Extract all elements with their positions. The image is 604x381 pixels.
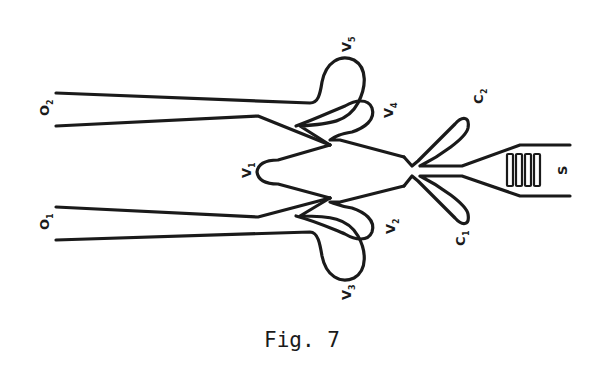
svg-text:V: V: [381, 108, 396, 118]
svg-text:S: S: [555, 166, 570, 175]
svg-text:V: V: [339, 42, 354, 52]
svg-text:O: O: [37, 219, 52, 230]
label-v1: V 1: [239, 162, 257, 178]
figure-caption: Fig. 7: [0, 328, 604, 352]
svg-text:O: O: [37, 105, 52, 116]
svg-text:2: 2: [480, 88, 489, 94]
label-s: S: [555, 166, 570, 175]
sensor-s-electrodes: [507, 154, 540, 186]
svg-text:1: 1: [46, 213, 55, 219]
label-c1: C 1: [453, 230, 471, 246]
label-v2: V 2: [383, 218, 401, 234]
svg-text:C: C: [453, 236, 468, 246]
svg-text:3: 3: [348, 284, 357, 290]
svg-text:2: 2: [392, 218, 401, 224]
outlet-channel-o2: [56, 58, 364, 145]
outlet-channel-o1: [56, 198, 364, 280]
label-v5: V 5: [339, 36, 357, 52]
svg-text:1: 1: [248, 162, 257, 168]
label-v4: V 4: [381, 102, 399, 118]
label-o2: O 2: [37, 99, 55, 116]
svg-text:1: 1: [462, 230, 471, 236]
svg-text:5: 5: [348, 36, 357, 42]
svg-text:4: 4: [390, 102, 399, 108]
svg-text:V: V: [383, 224, 398, 234]
svg-text:2: 2: [46, 99, 55, 105]
label-v3: V 3: [339, 284, 357, 300]
svg-text:C: C: [471, 94, 486, 104]
label-c2: C 2: [471, 88, 489, 104]
microfluidic-diagram: O 2 O 1 V 1 V 5 V 4 V 2 V 3 C 2 C 1 S: [0, 0, 604, 381]
junction-c-lobes: [404, 118, 570, 223]
svg-text:V: V: [339, 290, 354, 300]
label-o1: O 1: [37, 213, 55, 230]
svg-text:V: V: [239, 168, 254, 178]
valve-v1-chamber: [257, 145, 330, 198]
